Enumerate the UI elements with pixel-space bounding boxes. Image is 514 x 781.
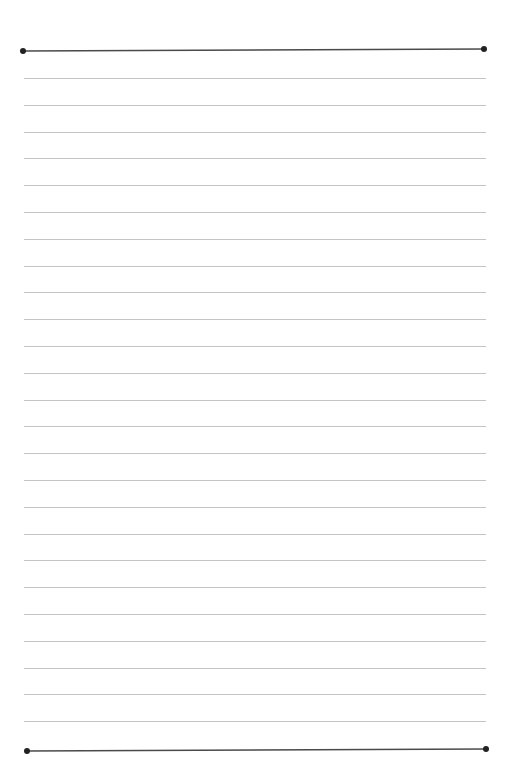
top-right-dot-icon	[481, 46, 487, 52]
bottom-border-line	[27, 749, 486, 751]
bottom-left-dot-icon	[24, 748, 30, 754]
lined-paper-page	[0, 0, 514, 781]
ruled-lines	[24, 79, 486, 722]
bottom-right-dot-icon	[483, 746, 489, 752]
top-border-line	[23, 49, 484, 51]
lined-paper-sheet	[0, 0, 514, 781]
top-left-dot-icon	[20, 48, 26, 54]
